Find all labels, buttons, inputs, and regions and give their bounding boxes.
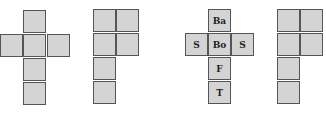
face-square [23, 58, 46, 81]
face-square [0, 34, 23, 57]
face-square [23, 82, 46, 105]
face-square [116, 9, 139, 32]
face-f: F [208, 57, 231, 80]
face-square [277, 57, 300, 80]
face-square [23, 34, 46, 57]
face-square [47, 34, 70, 57]
face-square [277, 9, 300, 32]
face-bo: Bo [208, 33, 231, 56]
face-square [277, 33, 300, 56]
face-square [93, 81, 116, 104]
face-square [23, 10, 46, 33]
face-square [93, 57, 116, 80]
face-s: S [185, 33, 208, 56]
face-square [300, 33, 323, 56]
face-square [277, 81, 300, 104]
face-ba: Ba [208, 9, 231, 32]
face-square [93, 33, 116, 56]
face-square [116, 33, 139, 56]
face-square [300, 9, 323, 32]
face-t: T [208, 81, 231, 104]
face-s: S [231, 33, 254, 56]
face-square [93, 9, 116, 32]
